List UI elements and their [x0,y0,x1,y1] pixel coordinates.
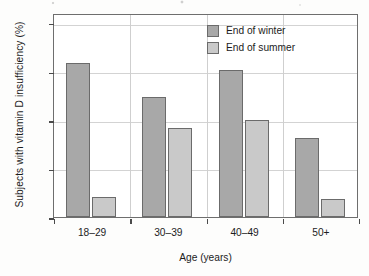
legend-item: End of winter [207,22,295,39]
bar-winter [142,97,166,217]
bar-winter [295,138,319,217]
y-axis-title: Subjects with vitamin D insufficiency (%… [14,10,25,220]
y-axis-tick [49,24,54,25]
legend-label: End of summer [226,42,295,53]
y-axis-tick [49,121,54,122]
plot-area: 01020304018–2930–3940–4950+ [54,15,357,217]
legend-swatch-summer [207,42,219,54]
bar-chart-figure: Subjects with vitamin D insufficiency (%… [0,0,369,276]
legend-swatch-winter [207,25,219,37]
chart-legend: End of winterEnd of summer [207,22,295,56]
plot-frame: 01020304018–2930–3940–4950+ [53,14,358,218]
x-axis-tick [207,219,208,224]
bar-summer [245,120,269,217]
legend-label: End of winter [226,25,285,36]
x-axis-tick [359,219,360,224]
gridline-horizontal [54,25,357,26]
bar-winter [219,70,243,217]
x-axis-tick [283,219,284,224]
y-axis-tick [49,170,54,171]
bar-winter [66,63,90,217]
y-axis-tick [49,73,54,74]
gridline-horizontal [54,73,357,74]
legend-item: End of summer [207,39,295,56]
bar-summer [321,199,345,217]
x-axis-tick [54,219,55,224]
category-separator-line [130,15,131,217]
x-axis-title: Age (years) [53,252,358,263]
gridline-horizontal [54,122,357,123]
x-axis-tick [130,219,131,224]
bar-summer [168,128,192,217]
x-axis-category-label: 50+ [276,227,366,238]
bar-summer [92,197,116,217]
